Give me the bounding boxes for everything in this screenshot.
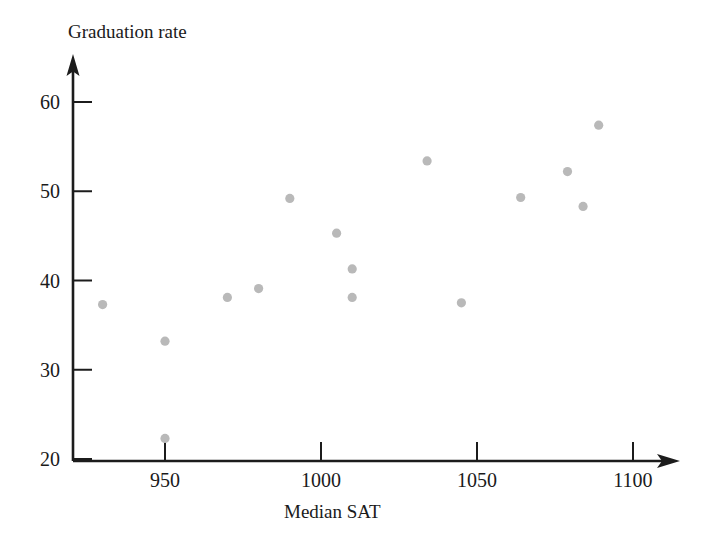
y-axis-group — [67, 54, 80, 461]
x-tick-label: 1000 — [286, 470, 356, 490]
x-tick-label: 1050 — [442, 470, 512, 490]
data-point — [285, 194, 294, 203]
data-point — [160, 337, 169, 346]
data-point — [348, 293, 357, 302]
data-point — [422, 156, 431, 165]
data-point — [516, 193, 525, 202]
plot-area — [0, 0, 721, 545]
data-point — [332, 229, 341, 238]
data-point — [348, 264, 357, 273]
data-point — [160, 434, 169, 443]
data-point — [563, 167, 572, 176]
data-point — [223, 293, 232, 302]
data-point — [254, 284, 263, 293]
data-point — [457, 298, 466, 307]
scatterplot-figure: Graduation rate Median SAT 2030405060 95… — [0, 0, 721, 545]
y-tick-label: 60 — [14, 92, 60, 112]
data-point — [578, 202, 587, 211]
x-tick-marks — [165, 442, 633, 461]
data-point — [98, 300, 107, 309]
y-tick-label: 30 — [14, 360, 60, 380]
y-tick-label: 20 — [14, 449, 60, 469]
y-tick-marks — [73, 102, 92, 459]
x-tick-label: 1100 — [598, 470, 668, 490]
data-point — [594, 121, 603, 130]
y-tick-label: 40 — [14, 271, 60, 291]
data-points-group — [98, 121, 603, 443]
x-tick-label: 950 — [130, 470, 200, 490]
y-tick-label: 50 — [14, 181, 60, 201]
